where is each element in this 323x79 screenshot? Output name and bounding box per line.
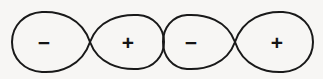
orbital-left-group — [12, 12, 164, 72]
lobe-right-negative-outline — [163, 15, 235, 69]
minus-sign-left-orbital: − — [38, 32, 50, 53]
orbital-diagram: − + − + — [0, 0, 323, 79]
lobe-left-negative-outline — [12, 12, 90, 72]
plus-sign-right-orbital: + — [271, 32, 283, 53]
plus-sign-left-orbital: + — [122, 32, 134, 53]
minus-sign-right-orbital: − — [185, 32, 197, 53]
